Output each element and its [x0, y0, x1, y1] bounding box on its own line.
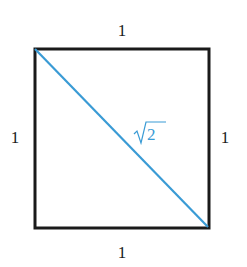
bottom-side-label: 1 [118, 243, 127, 262]
diagonal-length-label: 2 [134, 122, 166, 144]
diagonal-line [35, 49, 208, 227]
unit-square-diagram: 1 1 1 1 2 [0, 0, 247, 267]
diagonal-radicand: 2 [147, 125, 156, 144]
right-side-label: 1 [221, 128, 230, 147]
left-side-label: 1 [11, 128, 20, 147]
top-side-label: 1 [118, 21, 127, 40]
